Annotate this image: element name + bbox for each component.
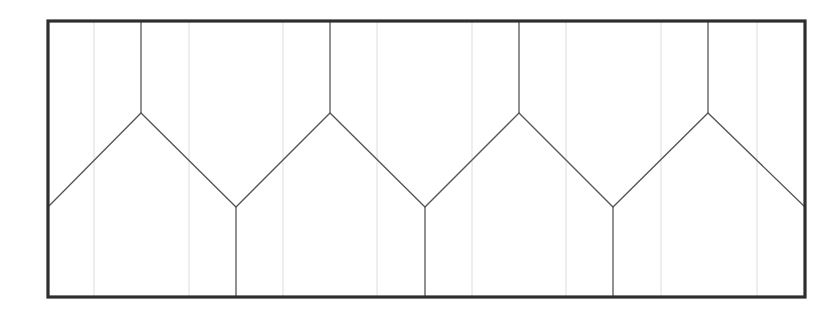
panel-elevation-drawing (0, 0, 840, 315)
diagram-canvas (0, 0, 840, 315)
drawing-background (0, 0, 840, 315)
